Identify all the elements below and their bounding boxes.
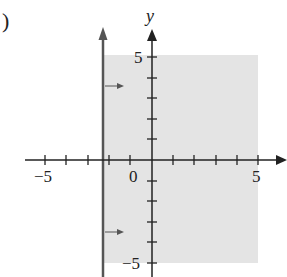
shaded-region bbox=[103, 55, 258, 263]
y-axis-arrow-icon bbox=[147, 29, 157, 41]
x-axis-arrow-icon bbox=[276, 155, 287, 165]
region-graph: ) y −5 bbox=[0, 0, 287, 277]
x-tick-label-5: 5 bbox=[252, 167, 261, 186]
y-tick-label-5: 5 bbox=[134, 48, 143, 67]
figure-label: ) bbox=[2, 8, 9, 33]
y-axis-label: y bbox=[144, 6, 154, 26]
origin-label: 0 bbox=[129, 167, 138, 186]
boundary-arrow-icon bbox=[99, 27, 108, 40]
x-tick-label-neg5: −5 bbox=[34, 167, 52, 186]
y-tick-label-neg5: −5 bbox=[122, 254, 140, 273]
